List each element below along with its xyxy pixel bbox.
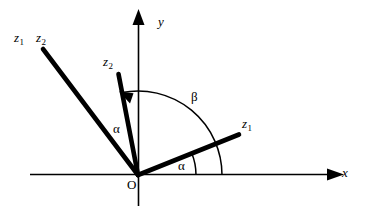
- diagram-canvas: [0, 0, 367, 218]
- label-z2-outer: z2: [36, 31, 46, 47]
- label-z1-right-base: z: [242, 116, 247, 131]
- label-z2-outer-base: z: [36, 30, 41, 45]
- y-axis-arrowhead: [133, 9, 145, 25]
- label-z2-inner: z2: [103, 55, 113, 71]
- label-alpha-right: α: [178, 159, 185, 172]
- label-z2-outer-subscript: 2: [42, 37, 47, 47]
- label-z1-outer-base: z: [14, 30, 19, 45]
- label-alpha-left: α: [113, 122, 120, 135]
- vector-z1: [138, 135, 239, 176]
- label-beta: β: [191, 90, 198, 103]
- label-z2-inner-subscript: 2: [109, 61, 114, 71]
- label-z1-outer: z1: [14, 31, 24, 47]
- y-axis-label: y: [158, 15, 164, 28]
- x-axis-label: x: [342, 166, 348, 179]
- origin-label: O: [127, 178, 136, 191]
- vector-diagram-figure: x y O z1 z2 z2 z1 α α β: [0, 0, 367, 218]
- label-z1-right: z1: [242, 117, 252, 133]
- label-z1-right-subscript: 1: [248, 123, 253, 133]
- label-z2-inner-base: z: [103, 54, 108, 69]
- alpha-arc: [192, 153, 196, 175]
- label-z1-outer-subscript: 1: [20, 37, 25, 47]
